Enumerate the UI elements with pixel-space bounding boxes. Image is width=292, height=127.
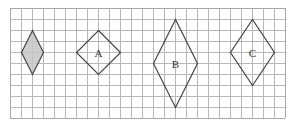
shape-label: A bbox=[95, 47, 103, 59]
grid-diagram: ABC bbox=[0, 0, 292, 127]
shape-label: B bbox=[172, 58, 179, 70]
rhombus-outline bbox=[22, 31, 44, 75]
shape-label: C bbox=[249, 47, 256, 59]
rhombus-shaded bbox=[22, 31, 44, 75]
grid-lines bbox=[10, 8, 286, 119]
